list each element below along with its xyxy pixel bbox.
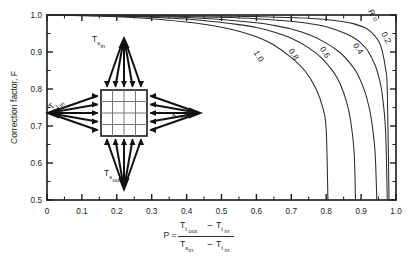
tube-inlet-arrows-head [92, 127, 99, 133]
curve-label-text: 0.8 [287, 47, 302, 62]
tube-outlet-arrows-head [150, 119, 157, 125]
curve-label-0p6: 0.6 [318, 45, 333, 60]
x-axis-tick-labels: 00.10.20.30.40.50.60.70.80.91.0 [45, 207, 402, 216]
shell-outlet-arrows-head [130, 139, 136, 146]
x-title-num-term-1: Ttout [180, 220, 197, 234]
x-tick-label: 0.8 [321, 207, 333, 216]
tube-outlet-arrows-head [150, 127, 157, 133]
x-title-den-term-2-sub: t [221, 245, 223, 251]
curve-label-text: 0.6 [318, 45, 333, 60]
curve-label-0p2: 0.2 [379, 30, 393, 45]
x-tick-label: 0.9 [355, 207, 367, 216]
r-legend-prefix: R = [366, 7, 381, 24]
x-tick-label: 0.4 [181, 207, 193, 216]
x-tick-label: 0.2 [111, 207, 123, 216]
shell-inlet-arrows-head [104, 81, 110, 88]
x-title-num-term-1-sub: t [185, 226, 187, 232]
curve-1p0 [47, 15, 328, 200]
tube-outlet-arrows-head [150, 102, 157, 108]
shell-outlet-arrows-head [113, 139, 119, 146]
shell-outlet-arrows-head [138, 139, 144, 146]
x-title-den-term-2-sub2: in [225, 247, 230, 253]
x-tick-label: 0.3 [146, 207, 158, 216]
x-tick-label: 1.0 [390, 207, 402, 216]
x-axis-title: P =Ttout–TtinTsin–Ttin [164, 220, 234, 253]
tube-inlet-arrows-head [92, 93, 99, 99]
y-axis-title-text: Correction factor, F [9, 71, 19, 144]
x-title-den-term-1-sub2: in [189, 247, 194, 253]
heat-exchanger-schematic: TsinTsoutTtinTtout [45, 34, 203, 192]
x-tick-label: 0.6 [251, 207, 263, 216]
curve-label-text: 0.4 [351, 41, 366, 56]
x-tick-label: 0.1 [76, 207, 88, 216]
r-legend-prefix-text: R = [366, 7, 381, 24]
shell-outlet-arrows-head [121, 139, 127, 146]
x-title-num-term-1-sub2: out [189, 228, 198, 234]
shell-inlet-arrows-head [130, 81, 136, 88]
curve-label-0p8: 0.8 [287, 47, 302, 62]
curve-label-1p0: 1.0 [252, 48, 267, 63]
y-tick-label: 0.8 [31, 85, 43, 94]
y-axis-tick-labels: 1.00.90.80.70.60.5 [31, 11, 43, 205]
x-title-den-term-2: Ttin [216, 239, 229, 253]
shell-outlet-arrows [104, 139, 144, 193]
tube-inlet-arrows [45, 93, 99, 133]
tube-inlet-arrows-head [92, 119, 99, 125]
x-title-den-term-1: Tsin [180, 239, 193, 253]
tube-outlet-arrows [150, 93, 204, 133]
y-tick-label: 0.9 [31, 48, 43, 57]
y-axis-title: Correction factor, F [9, 71, 19, 144]
x-title-num-minus: – [208, 220, 213, 230]
curve-label-text: 0.2 [379, 30, 393, 45]
x-title-num-term-2-sub: t [221, 226, 223, 232]
tube-outlet-arrows-head [150, 93, 157, 99]
y-tick-label: 0.7 [31, 122, 43, 131]
y-tick-label: 0.5 [31, 196, 43, 205]
x-tick-label: 0.7 [286, 207, 298, 216]
chart-figure: 00.10.20.30.40.50.60.70.80.91.01.00.90.8… [0, 0, 413, 263]
y-tick-label: 0.6 [31, 159, 43, 168]
schematic-label-shell-in: Tsin [92, 34, 105, 49]
shell-inlet-arrows-head [121, 81, 127, 88]
shell-inlet-arrows-head [113, 81, 119, 88]
shell-inlet-arrows [104, 36, 144, 88]
x-title-den-minus: – [208, 239, 213, 249]
shell-inlet-arrows-head [138, 81, 144, 88]
curve-label-0p4: 0.4 [351, 41, 366, 56]
schematic-label-shell-out-sub2: out [112, 177, 121, 183]
tube-outlet-arrows-head [150, 110, 157, 116]
x-tick-label: 0.5 [216, 207, 228, 216]
tube-inlet-arrows-head [92, 110, 99, 116]
y-tick-label: 1.0 [31, 11, 43, 20]
shell-outlet-arrows-head [104, 139, 110, 146]
curve-labels: 0.20.40.60.81.0R = [252, 7, 394, 63]
schematic-label-shell-in-sub2: in [100, 43, 105, 49]
x-tick-label: 0 [45, 207, 50, 216]
tube-inlet-arrows-head [92, 102, 99, 108]
shell-inlet-arrows-trunk [119, 36, 130, 48]
lmtd-correction-factor-chart: 00.10.20.30.40.50.60.70.80.91.01.00.90.8… [0, 0, 413, 263]
x-title-num-term-2: Ttin [216, 220, 229, 234]
curve-label-text: 1.0 [252, 48, 267, 63]
x-axis-title-lead: P = [164, 230, 177, 240]
x-title-num-term-2-sub2: in [225, 228, 230, 234]
